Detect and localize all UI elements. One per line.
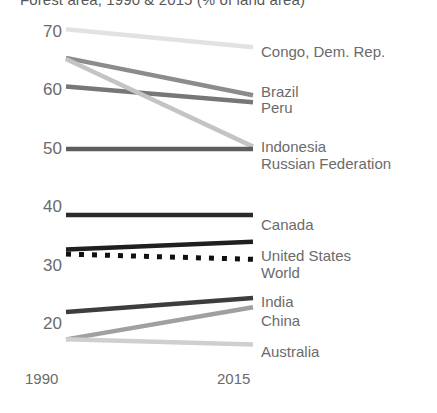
x-axis: 1990 2015 [0, 0, 437, 413]
x-axis-tick-label-1990: 1990 [25, 371, 58, 386]
chart-container: Forest area, 1990 & 2015 (% of land area… [0, 0, 437, 413]
x-axis-tick-label-2015: 2015 [217, 371, 250, 386]
